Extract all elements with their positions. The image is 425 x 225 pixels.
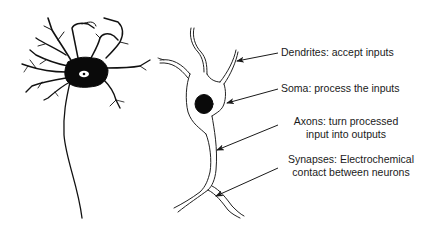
right-nucleus bbox=[195, 95, 213, 114]
neuron-diagram bbox=[0, 0, 425, 225]
left-neuron bbox=[22, 18, 164, 218]
label-soma: Soma: process the inputs bbox=[281, 82, 399, 95]
arrow-synapses bbox=[216, 168, 278, 196]
label-synapses-line1: Synapses: Electrochemical bbox=[280, 153, 422, 166]
label-axons-line2: input into outputs bbox=[282, 128, 410, 141]
arrow-dendrites bbox=[237, 53, 278, 61]
label-dendrites-text: Dendrites: accept inputs bbox=[281, 46, 394, 58]
arrow-soma bbox=[227, 89, 278, 103]
left-axon bbox=[64, 82, 82, 218]
label-axons: Axons: turn processed input into outputs bbox=[282, 115, 410, 140]
label-axons-line1: Axons: turn processed bbox=[282, 115, 410, 128]
label-synapses: Synapses: Electrochemical contact betwee… bbox=[280, 153, 422, 178]
arrow-axons bbox=[217, 125, 278, 150]
label-soma-text: Soma: process the inputs bbox=[281, 82, 399, 94]
label-synapses-line2: contact between neurons bbox=[280, 166, 422, 179]
label-dendrites: Dendrites: accept inputs bbox=[281, 46, 394, 59]
